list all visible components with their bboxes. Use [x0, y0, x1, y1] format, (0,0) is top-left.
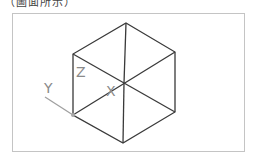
z-axis-label: Z	[76, 64, 86, 80]
isometric-cube-diagram: Z Y X	[0, 0, 254, 164]
y-axis-label: Y	[43, 80, 53, 96]
cube-edge-top-center	[124, 23, 126, 83]
origin-marker	[71, 113, 75, 117]
cube-edge-center-bottom	[123, 83, 124, 143]
y-axis-line	[45, 97, 73, 115]
x-axis-label: X	[106, 83, 116, 99]
